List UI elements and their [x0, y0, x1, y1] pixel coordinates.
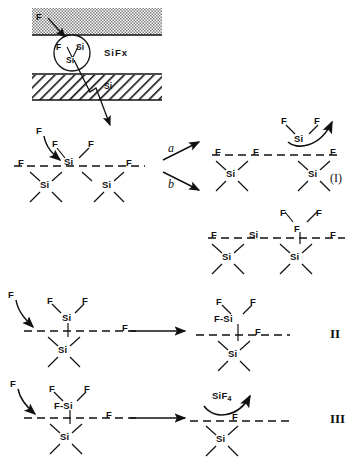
scheme-III-reactant-f-surface: F [106, 410, 112, 420]
circle-atom-f-label: F [56, 43, 61, 52]
scheme-I-b-si-surface: F [294, 224, 300, 234]
scheme-II-reactant-si-sub: Si [58, 345, 67, 355]
scheme-II-product-f-left: F [216, 297, 222, 307]
scheme-III-reactant-fsi-group: F-Si [54, 401, 73, 411]
bulk-silicon-region [32, 74, 162, 100]
scheme-III-numeral: III [330, 412, 345, 425]
scheme-II-reactant-si-top: Si [62, 313, 71, 323]
sif4-formula-base: SiF [212, 390, 227, 401]
scheme-I-a-si-sub-left: Si [226, 169, 235, 179]
scheme-I-b-f-left: F [211, 230, 217, 240]
scheme-II-product-fsi-group: F-Si [214, 314, 233, 324]
top-incoming-f-label: F [36, 12, 42, 22]
scheme-II-numeral: II [330, 327, 340, 340]
scheme-I-b-f-right: F [330, 230, 336, 240]
scheme-I-b-f-mid: Si [249, 230, 258, 240]
scheme-I-product-b-structure [208, 212, 345, 274]
scheme-III-product-si-sub: Si [216, 434, 225, 444]
figure-canvas: F F Si Si SiFx Si F F F Si F F Si Si a b… [0, 0, 362, 468]
scheme-I-reactant-f-top-left: F [52, 139, 58, 149]
scheme-III-reactant-f-top: F [49, 384, 55, 394]
branch-a-label: a [168, 142, 174, 154]
scheme-I-a-surface-f-left: F [215, 147, 221, 157]
scheme-III-reactant-structure [18, 389, 140, 454]
scheme-II-product-f-surface: F [255, 327, 261, 337]
scheme-I-a-surface-f-right: F [330, 147, 336, 157]
scheme-I-b-f-top-left: F [280, 208, 286, 218]
scheme-I-b-f-top-right: F [316, 208, 322, 218]
diagram-vector-layer [0, 0, 362, 468]
scheme-II-reactant-f-left: F [47, 296, 53, 306]
scheme-III-incoming-f-label: F [10, 379, 16, 389]
scheme-II-incoming-f-label: F [8, 290, 14, 300]
scheme-I-b-si-sub-right: Si [290, 252, 299, 262]
scheme-I-reactant-si-sub-left: Si [40, 180, 49, 190]
scheme-I-numeral: (I) [330, 172, 342, 184]
scheme-I-product-a-structure [212, 122, 340, 191]
scheme-III-reactant-f-right: F [84, 384, 90, 394]
scheme-II-product-si-sub: Si [228, 349, 237, 359]
scheme-I-reactant-f-top-right: F [88, 139, 94, 149]
scheme-I-reactant-f-right: F [126, 158, 132, 168]
branch-b-label: b [168, 178, 174, 190]
sif4-formula-subscript: 4 [227, 395, 231, 402]
bulk-silicon-label: Si [104, 82, 112, 91]
scheme-I-a-surface-f-mid: F [253, 147, 259, 157]
scheme-I-a-leaving-f-right: F [314, 116, 320, 126]
scheme-I-a-leaving-f-left: F [281, 116, 287, 126]
scheme-I-a-leaving-si: Si [294, 134, 303, 144]
scheme-I-reactant-structure [14, 136, 145, 202]
scheme-II-reactant-f-right: F [82, 296, 88, 306]
scheme-I-reactant-si-center: Si [64, 157, 73, 167]
scheme-II-product-structure [196, 305, 290, 371]
scheme-I-reactant-si-sub-right: Si [102, 180, 111, 190]
sifx-circle-inset [54, 35, 90, 71]
circle-atom-si-lower-label: Si [66, 56, 74, 65]
scheme-I-incoming-f-label: F [36, 126, 42, 136]
scheme-II-reactant-f-surface: F [122, 323, 128, 333]
scheme-I-reactant-f-left: F [18, 158, 24, 168]
scheme-II-product-f-right: F [250, 297, 256, 307]
scheme-III-product-structure [190, 396, 293, 456]
scheme-III-product-f-surface: F [232, 412, 238, 422]
scheme-III-reactant-si-sub: Si [60, 432, 69, 442]
sifx-product-label: SiFx [104, 48, 128, 58]
circle-atom-si-upper-label: Si [76, 43, 84, 52]
scheme-II-reactant-structure [16, 300, 140, 367]
scheme-I-a-si-sub-right: Si [308, 169, 317, 179]
scheme-I-b-si-sub-left: Si [222, 252, 231, 262]
scheme-III-desorbing-sif4-label: SiF4 [212, 391, 231, 402]
